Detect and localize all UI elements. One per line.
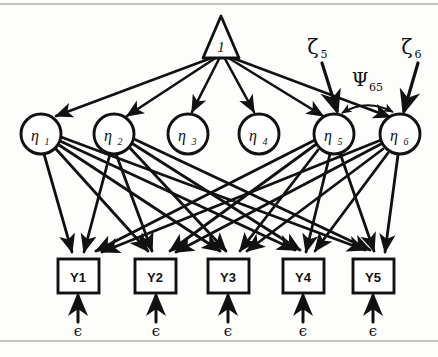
covariance-label-psi65: Ψ 65 <box>352 68 383 94</box>
edge-eta5-to-Y2 <box>170 145 315 251</box>
edge-1-to-eta2 <box>127 57 217 116</box>
latent-node-label-base: η <box>178 127 186 145</box>
latent-node-label-sub: 4 <box>263 136 268 147</box>
constant-node-label: 1 <box>217 39 225 55</box>
edge-1-to-eta1 <box>56 57 214 116</box>
indicator-box-label: Y4 <box>295 270 312 285</box>
edge-eta1-to-Y4 <box>60 141 295 250</box>
disturbance-label-zeta6: ζ 6 <box>401 35 421 61</box>
latent-node-label-sub: 1 <box>45 136 50 147</box>
indicator-box-label: Y1 <box>70 270 86 285</box>
error-label-eps5: ϵ <box>369 322 377 340</box>
edge-zeta5-to-eta5 <box>322 63 337 111</box>
error-label-eps3: ϵ <box>224 322 232 340</box>
latent-node-eta5[interactable]: η 5 <box>314 114 354 154</box>
latent-node-eta3[interactable]: η 3 <box>168 114 208 154</box>
disturbance-label-zeta5: ζ 5 <box>307 35 327 61</box>
edge-eta1-to-Y1 <box>44 154 72 252</box>
diagram-canvas: 1 η 1 η 2 η 3 η 4 η 5 η <box>0 0 438 357</box>
circle-shape <box>94 114 134 154</box>
latent-node-label-base: η <box>324 127 332 145</box>
latent-node-label-sub: 5 <box>338 136 343 147</box>
indicator-box-Y5[interactable]: Y5 <box>353 259 394 293</box>
indicator-box-label: Y3 <box>220 270 236 285</box>
latent-node-label-sub: 3 <box>191 136 197 147</box>
latent-node-eta2[interactable]: η 2 <box>94 114 134 154</box>
constant-node-1[interactable]: 1 <box>203 16 239 58</box>
indicator-box-label: Y2 <box>147 270 163 285</box>
error-label-eps2: ϵ <box>152 322 160 340</box>
latent-node-label-base: η <box>104 127 112 145</box>
indicator-box-Y2[interactable]: Y2 <box>135 259 176 293</box>
indicator-box-label: Y5 <box>365 270 381 285</box>
latent-node-eta6[interactable]: η 6 <box>380 114 420 154</box>
circle-shape <box>168 114 208 154</box>
latent-node-label-sub: 6 <box>404 136 409 147</box>
indicator-box-Y3[interactable]: Y3 <box>208 259 249 293</box>
latent-node-label-base: η <box>249 127 257 145</box>
edge-eta1-to-Y3 <box>59 145 220 251</box>
edge-zeta6-to-eta6 <box>404 63 418 111</box>
circle-shape <box>380 114 420 154</box>
psi-base: Ψ <box>352 68 369 90</box>
zeta6-sub: 6 <box>415 48 422 61</box>
latent-node-eta1[interactable]: η 1 <box>21 114 61 154</box>
indicator-box-Y4[interactable]: Y4 <box>283 259 324 293</box>
path-diagram-figure: 1 η 1 η 2 η 3 η 4 η 5 η <box>0 0 438 357</box>
edge-eta6-to-Y5 <box>385 155 398 252</box>
latent-node-label-base: η <box>390 127 398 145</box>
error-label-eps1: ϵ <box>74 322 82 340</box>
zeta6-base: ζ <box>401 35 412 59</box>
latent-node-label-base: η <box>31 127 39 145</box>
latent-node-label-sub: 2 <box>118 136 123 147</box>
error-label-eps4: ϵ <box>299 322 307 340</box>
circle-shape <box>21 114 61 154</box>
circle-shape <box>239 114 279 154</box>
circle-shape <box>314 114 354 154</box>
psi-sub: 65 <box>369 81 383 94</box>
edge-group-constant-to-latent <box>56 57 390 117</box>
edge-group-measurement-errors <box>78 296 373 322</box>
zeta5-sub: 5 <box>321 48 328 61</box>
latent-node-eta4[interactable]: η 4 <box>239 114 279 154</box>
indicator-box-Y1[interactable]: Y1 <box>58 259 99 293</box>
zeta5-base: ζ <box>307 35 318 59</box>
